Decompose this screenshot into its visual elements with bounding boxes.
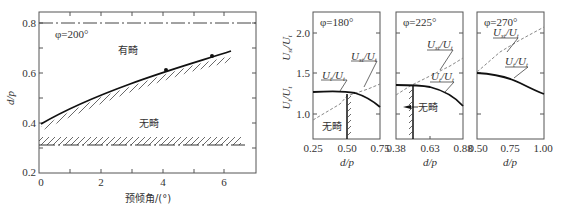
ytick-0.6: 0.6 [22,67,36,79]
right-y-tick-labels: 2.0 1.5 1.0 [296,27,310,120]
data-point [164,68,168,72]
ytick-0.8: 0.8 [22,17,36,29]
left-bottom-ticks [70,169,224,173]
panel-270-xlabel: d/p [503,156,518,168]
lower-hatch-band [39,137,241,145]
left-y-axis-label: d/p [4,90,16,105]
ut-curve-270 [477,73,544,94]
xtick: 0.38 [386,142,406,154]
xtick: 0.75 [500,142,520,154]
curve-hatch [41,56,231,131]
no-distortion-180: 无畸 [322,120,342,132]
ust-ylabel: Ust/Ut [280,34,294,61]
ytick-1.5: 1.5 [296,67,310,79]
xtick-2: 2 [98,176,104,188]
xtick: 1.00 [533,142,553,154]
left-chart: φ=200° 有畸 无畸 0.8 0.6 0.4 0.2 0 2 4 6 d/p… [4,12,256,204]
left-x-tick-labels: 0 2 4 6 [38,176,227,188]
left-chart-title: φ=200° [55,28,88,40]
figure: φ=200° 有畸 无畸 0.8 0.6 0.4 0.2 0 2 4 6 d/p… [0,0,565,211]
data-point [210,54,214,58]
ut-label-180: Ut/Ut [322,69,346,83]
no-distortion-225: 无畸 [418,101,438,113]
region-distorted-label: 有畸 [118,44,138,56]
ut-label-270: Ut/Ut [505,55,529,69]
xtick-6: 6 [221,176,227,188]
panel-270-title: φ=270° [484,16,517,28]
region-undistorted-label: 无畸 [139,117,159,129]
panel-180: Ut/Ut Ust/Ut 无畸 φ=180° 0.25 0.50 0.75 d/… [303,12,390,168]
panel-225: 无畸 Ust/Ut Ut/Ut φ=225° 0.38 0.63 0.88 d/… [386,12,473,168]
panel-225-title: φ=225° [403,16,436,28]
ust-label-180: Ust/Ut [351,50,378,64]
xtick: 0.25 [303,142,323,154]
panel-270: Ust/Ut Ut/Ut φ=270° 0.50 0.75 1.00 d/p [468,12,553,168]
xtick: 0.63 [420,142,440,154]
ytick-2.0: 2.0 [296,27,310,39]
panel-225-xlabel: d/p [423,156,438,168]
ust-label-225: Ust/Ut [427,38,454,52]
xtick-4: 4 [160,176,166,188]
right-y-axis-label: Ust/Ut Ut/Ut [280,34,294,109]
ust-label-270: Ust/Ut [493,26,520,40]
left-top-ticks [70,12,224,16]
arrow-icon [403,105,411,109]
ytick-0.2: 0.2 [22,166,36,178]
panel-180-xlabel: d/p [340,156,355,168]
ut-label-225: Ut/Ut [431,70,455,84]
ytick-1.0: 1.0 [296,108,310,120]
left-y-tick-labels: 0.8 0.6 0.4 0.2 [22,17,36,178]
ytick-0.4: 0.4 [22,117,36,129]
xtick: 0.50 [337,142,357,154]
xtick-0: 0 [38,176,44,188]
panel-180-title: φ=180° [320,16,353,28]
ut-ylabel: Ut/Ut [280,86,294,110]
left-x-axis-label: 预倾角/(°) [125,192,171,204]
xtick: 0.50 [468,142,488,154]
